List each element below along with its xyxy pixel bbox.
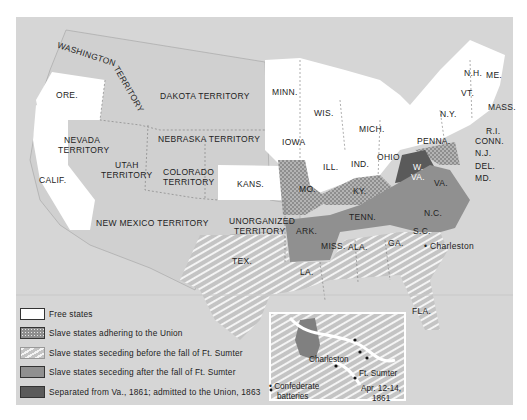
label-rhode-island: R.I. (486, 127, 500, 136)
label-arkansas: ARK. (296, 227, 317, 236)
swatch-west-virginia (20, 386, 45, 398)
label-texas: TEX. (232, 257, 252, 266)
label-colorado-2: TERRITORY (163, 178, 215, 187)
label-missouri: MO. (299, 185, 316, 194)
label-california: CALIF. (39, 176, 66, 185)
label-virginia: VA. (434, 179, 448, 188)
label-unorganized-2: TERRITORY (234, 227, 286, 236)
label-ohio: OHIO (377, 153, 400, 162)
label-minnesota: MINN. (272, 88, 298, 97)
label-tennessee: TENN. (349, 213, 376, 222)
label-dakota: DAKOTA TERRITORY (160, 92, 250, 101)
legend-label: Slave states adhering to the Union (49, 328, 183, 338)
legend-item-union-slave: Slave states adhering to the Union (20, 324, 261, 344)
inset-date-label-1: Apr. 12-14, (361, 384, 401, 393)
label-charleston: • Charleston (424, 242, 474, 251)
label-pennsylvania: PENNA. (417, 137, 450, 146)
label-nevada: NEVADA (64, 136, 100, 145)
label-nevada-2: TERRITORY (58, 146, 110, 155)
label-kansas: KANS. (237, 180, 264, 189)
label-new-york: N.Y. (440, 110, 457, 119)
legend-item-seceded-before: Slave states seceding before the fall of… (20, 343, 261, 363)
label-south-carolina: S.C. (413, 227, 431, 236)
label-georgia: GA. (388, 239, 404, 248)
label-new-mexico: NEW MEXICO TERRITORY (96, 219, 209, 228)
label-nebraska: NEBRASKA TERRITORY (158, 135, 260, 144)
map-panel: WASHINGTON TERRITORY ORE. DAKOTA TERRITO… (16, 17, 513, 405)
label-connecticut: CONN. (475, 137, 504, 146)
label-new-jersey: N.J. (475, 149, 491, 158)
swatch-seceded-before (20, 347, 45, 359)
label-utah: UTAH (115, 161, 139, 170)
legend-item-free: Free states (20, 304, 261, 324)
label-oregon: ORE. (56, 91, 78, 100)
label-indiana: IND. (351, 160, 369, 169)
legend-label: Slave states seceding after the fall of … (49, 367, 236, 377)
label-unorganized: UNORGANIZED (229, 217, 295, 226)
label-massachusetts: MASS. (488, 103, 516, 112)
label-utah-2: TERRITORY (101, 171, 153, 180)
label-mississippi: MISS. (321, 242, 346, 251)
label-louisiana: LA. (300, 268, 314, 277)
label-maine: ME. (486, 71, 502, 80)
label-west-virginia: W. (413, 163, 424, 172)
label-maryland: MD. (475, 174, 491, 183)
label-wisconsin: WIS. (314, 109, 334, 118)
inset-batteries-label-1: • Confederate (269, 382, 319, 391)
inset-ft-sumter-label: Ft. Sumter (359, 369, 397, 378)
label-new-hampshire: N.H. (464, 69, 482, 78)
legend-label: Free states (49, 309, 93, 319)
legend-item-west-virginia: Separated from Va., 1861; admitted to th… (20, 382, 261, 402)
label-kentucky: KY. (353, 187, 367, 196)
label-west-virginia-2: VA. (411, 173, 425, 182)
swatch-union-slave (20, 327, 45, 339)
label-delaware: DEL. (475, 162, 495, 171)
inset-date-label-2: 1861 (372, 394, 390, 403)
label-michigan: MICH. (359, 125, 385, 134)
legend-label: Slave states seceding before the fall of… (49, 348, 243, 358)
swatch-free (20, 308, 45, 320)
label-iowa: IOWA (282, 138, 306, 147)
label-alabama: ALA. (348, 243, 368, 252)
label-illinois: ILL. (323, 163, 338, 172)
label-colorado: COLORADO (163, 168, 214, 177)
label-north-carolina: N.C. (424, 209, 442, 218)
legend-item-seceded-after: Slave states seceding after the fall of … (20, 363, 261, 383)
legend: Free states Slave states adhering to the… (20, 304, 261, 402)
inset-charleston-label: Charleston (309, 355, 349, 364)
legend-label: Separated from Va., 1861; admitted to th… (49, 387, 261, 397)
label-vermont: VT. (461, 89, 474, 98)
inset-batteries-label-2: batteries (277, 392, 308, 401)
label-florida: FLA. (412, 307, 431, 316)
swatch-seceded-after (20, 366, 45, 378)
